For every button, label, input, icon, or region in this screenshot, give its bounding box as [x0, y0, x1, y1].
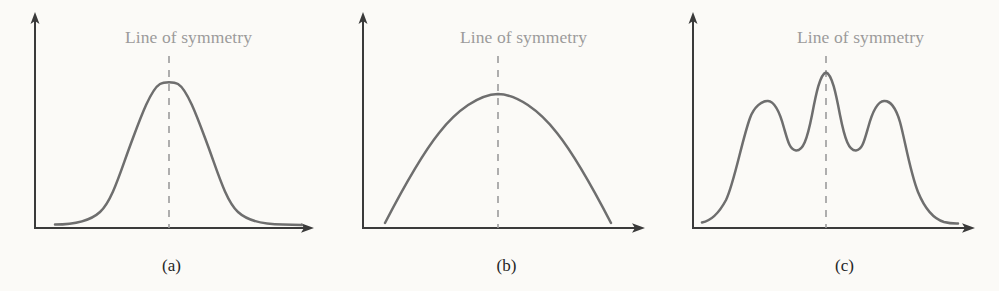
caption-c: (c): [666, 256, 999, 276]
caption-a: (a): [0, 256, 338, 276]
symmetry-label-a: Line of symmetry: [0, 27, 355, 48]
panel-a: Line of symmetry (a): [0, 0, 333, 291]
distribution-curve-a: [55, 82, 302, 225]
panel-b: Line of symmetry (b): [333, 0, 666, 291]
distribution-curve-c: [702, 73, 958, 224]
symmetry-label-c: Line of symmetry: [666, 27, 999, 48]
caption-b: (b): [333, 256, 673, 276]
symmetry-label-b: Line of symmetry: [333, 27, 690, 48]
panel-c: Line of symmetry (c): [666, 0, 999, 291]
symmetry-figure: Line of symmetry (a) Line of symmetry (b…: [0, 0, 999, 291]
